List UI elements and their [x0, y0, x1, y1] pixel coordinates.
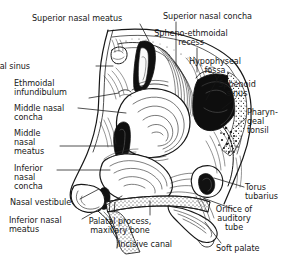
label-frontal-sinus: Frontal sinus: [0, 62, 30, 71]
label-line: infundibulum: [14, 88, 67, 97]
anatomical-figure: Superior nasal meatusSuperior nasal conc…: [0, 0, 303, 265]
label-line: Incisive canal: [118, 240, 172, 249]
label-line: Nasal vestibule: [10, 198, 71, 207]
label-spheno-ethmoidal-recess: Spheno-ethmoidalrecess: [154, 29, 227, 47]
label-line: Superior nasal concha: [163, 12, 252, 21]
label-hypophyseal-fossa: Hypophysealfossa: [189, 57, 241, 75]
label-incisive-canal: Incisive canal: [118, 240, 172, 249]
label-line: tonsil: [247, 126, 278, 135]
label-middle-nasal-meatus: Middlenasalmeatus: [14, 129, 44, 156]
label-middle-nasal-concha: Middle nasalconcha: [14, 104, 64, 122]
label-line: Soft palate: [216, 244, 259, 253]
leader-line-superior-nasal-meatus: [140, 24, 149, 41]
label-line: meatus: [14, 147, 44, 156]
label-inferior-nasal-meatus: Inferior nasalmeatus: [9, 216, 62, 234]
label-line: fossa: [189, 66, 241, 75]
label-line: maxillary bone: [89, 226, 152, 235]
label-torus-tubarius: Torustubarius: [245, 183, 278, 201]
label-line: concha: [14, 113, 64, 122]
label-line: tubarius: [245, 192, 278, 201]
label-line: tube: [216, 223, 252, 232]
label-line: recess: [154, 38, 227, 47]
label-inferior-nasal-concha: Inferiornasalconcha: [14, 164, 43, 191]
label-soft-palate: Soft palate: [216, 244, 259, 253]
label-line: Superior nasal meatus: [32, 14, 122, 23]
label-nasal-vestibule: Nasal vestibule: [10, 198, 71, 207]
label-superior-nasal-concha: Superior nasal concha: [163, 12, 252, 21]
label-palatal-process-maxillary-bone: Palatal process,maxillary bone: [89, 217, 152, 235]
label-line: sinus: [218, 89, 255, 98]
label-line: meatus: [9, 225, 62, 234]
label-ethmoidal-infundibulum: Ethmoidalinfundibulum: [14, 79, 67, 97]
label-sphenoid-sinus: Sphenoidsinus: [218, 80, 255, 98]
label-pharyngeal-tonsil: Pharyn-gealtonsil: [247, 108, 278, 135]
label-orifice-of-auditory-tube: Orifice ofauditorytube: [216, 205, 252, 232]
label-superior-nasal-meatus: Superior nasal meatus: [32, 14, 122, 23]
label-line: Frontal sinus: [0, 62, 30, 71]
label-line: concha: [14, 182, 43, 191]
